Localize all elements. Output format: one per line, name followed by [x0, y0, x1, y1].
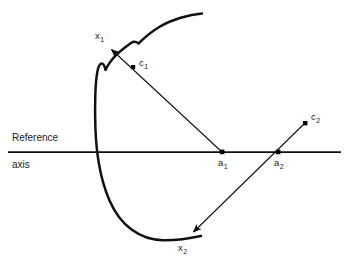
arrow-a1-to-x1	[112, 50, 223, 153]
label-a2-subscript: 2	[280, 163, 284, 170]
label-a1-base: a	[218, 157, 223, 168]
reference-axis-label-line1: Reference	[12, 133, 58, 143]
label-x2: x2	[178, 243, 187, 253]
arrow-c2-to-x2	[194, 123, 306, 232]
label-c1: c1	[139, 58, 148, 68]
label-c1-subscript: 1	[144, 63, 148, 70]
label-a1-subscript: 1	[224, 163, 228, 170]
label-a2: a2	[274, 158, 283, 168]
label-x1-subscript: 1	[100, 36, 104, 43]
point-c2-marker	[303, 121, 307, 125]
label-a1: a1	[218, 158, 227, 168]
label-c2: c2	[311, 112, 320, 122]
label-a2-base: a	[274, 157, 279, 168]
contour-curve	[95, 14, 202, 241]
reference-axis-label-line2: axis	[12, 160, 30, 170]
point-a1-marker	[220, 150, 225, 155]
point-c1-marker	[131, 65, 135, 69]
label-x2-subscript: 2	[183, 248, 187, 255]
point-a2-marker	[276, 150, 281, 155]
label-x1: x1	[95, 31, 104, 41]
label-c2-subscript: 2	[316, 117, 320, 124]
diagram-canvas: Reference axis x1 x2 c1 c2 a1 a2	[0, 0, 349, 265]
